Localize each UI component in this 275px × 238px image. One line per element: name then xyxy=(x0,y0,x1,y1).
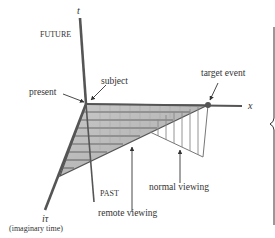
target-event-point xyxy=(205,102,211,108)
present-label: present xyxy=(29,87,57,97)
remote-viewing-label: remote viewing xyxy=(98,208,158,218)
target-event-arrow xyxy=(210,83,218,100)
spacetime-diagram: t FUTURE subject present target event x … xyxy=(0,0,275,238)
subject-label: subject xyxy=(101,76,128,86)
target-event-label: target event xyxy=(201,68,246,78)
future-label: FUTURE xyxy=(40,30,71,39)
i-tau-label: iτ xyxy=(42,213,49,224)
past-label: PAST xyxy=(100,189,119,198)
subject-arrow xyxy=(91,85,106,100)
normal-viewing-label: normal viewing xyxy=(149,182,209,192)
present-arrow xyxy=(63,94,84,102)
x-axis-label: x xyxy=(247,100,253,111)
imaginary-time-label: (imaginary time) xyxy=(9,224,63,233)
t-axis xyxy=(80,18,86,104)
right-brace xyxy=(270,27,274,225)
t-axis-label: t xyxy=(77,5,80,16)
